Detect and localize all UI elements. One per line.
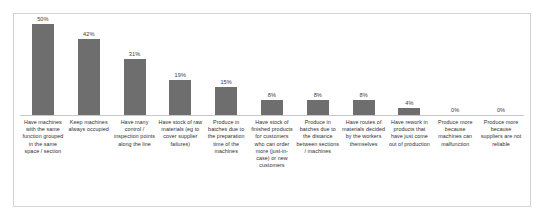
bar-value-label: 15% — [220, 79, 232, 86]
bar-value-label: 50% — [37, 16, 49, 23]
bar-rect[interactable] — [215, 87, 237, 115]
category-label: Produce in batches due to the distance b… — [295, 119, 341, 155]
bar-chart-plot-area: 50% Have machines with the same function… — [14, 14, 530, 206]
category-label: Have stock of finished products for cust… — [249, 119, 295, 169]
bar-column: 0% — [432, 14, 478, 115]
bar-value-label: 4% — [405, 100, 413, 107]
chart-frame: 50% Have machines with the same function… — [13, 13, 531, 207]
bar-column: 15% — [203, 14, 249, 115]
bar-group[interactable]: 4% Have rework in products that have jus… — [387, 14, 433, 206]
bar-group[interactable]: 8% Produce in batches due to the distanc… — [295, 14, 341, 206]
bar-rect[interactable] — [124, 59, 146, 115]
bar-column: 0% — [478, 14, 524, 115]
bar-value-label: 0% — [451, 107, 459, 114]
bar-rect[interactable] — [353, 100, 375, 115]
bar-value-label: 8% — [314, 92, 322, 99]
bar-column: 31% — [112, 14, 158, 115]
bar-column: 8% — [295, 14, 341, 115]
bar-column: 19% — [157, 14, 203, 115]
bar-rect[interactable] — [398, 108, 420, 115]
bar-value-label: 19% — [175, 72, 187, 79]
category-label: Have machines with the same function gro… — [20, 119, 66, 155]
bar-group[interactable]: 0% Produce more because suppliers are no… — [478, 14, 524, 206]
bar-value-label: 42% — [83, 31, 95, 38]
bar-column: 8% — [341, 14, 387, 115]
category-label: Have routes of materials decided by the … — [341, 119, 387, 148]
bar-group[interactable]: 8% Have stock of finished products for c… — [249, 14, 295, 206]
bar-group[interactable]: 15% Produce in batches due to the prepar… — [203, 14, 249, 206]
bar-group[interactable]: 50% Have machines with the same function… — [20, 14, 66, 206]
bar-group[interactable]: 19% Have stock of raw materials (eg to c… — [157, 14, 203, 206]
category-label: Have rework in products that have just c… — [387, 119, 433, 148]
bar-group[interactable]: 8% Have routes of materials decided by t… — [341, 14, 387, 206]
category-label: Have many control / inspection points al… — [112, 119, 158, 148]
bar-column: 42% — [66, 14, 112, 115]
bar-column: 8% — [249, 14, 295, 115]
bar-group[interactable]: 42% Keep machines always occupied — [66, 14, 112, 206]
category-label: Produce in batches due to the preparatio… — [203, 119, 249, 155]
category-label: Keep machines always occupied — [66, 119, 112, 133]
category-label: Produce more because suppliers are not r… — [478, 119, 524, 148]
bar-value-label: 8% — [359, 92, 367, 99]
bar-rect[interactable] — [169, 80, 191, 115]
category-label: Produce more because machines can malfun… — [432, 119, 478, 148]
bar-rect[interactable] — [32, 24, 54, 115]
category-label: Have stock of raw materials (eg to cover… — [157, 119, 203, 148]
bar-column: 4% — [387, 14, 433, 115]
bar-value-label: 8% — [268, 92, 276, 99]
bar-value-label: 31% — [129, 51, 141, 58]
bar-value-label: 0% — [497, 107, 505, 114]
bar-group[interactable]: 31% Have many control / inspection point… — [112, 14, 158, 206]
bar-rect[interactable] — [307, 100, 329, 115]
bar-rect[interactable] — [78, 39, 100, 115]
bar-column: 50% — [20, 14, 66, 115]
bar-rect[interactable] — [261, 100, 283, 115]
bar-group[interactable]: 0% Produce more because machines can mal… — [432, 14, 478, 206]
